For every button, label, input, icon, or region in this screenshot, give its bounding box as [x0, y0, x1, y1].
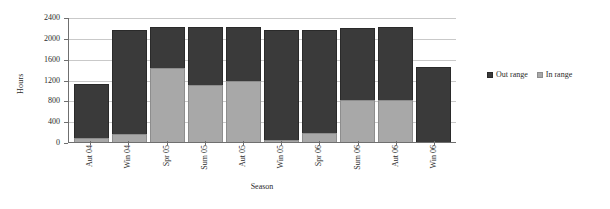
- x-axis-tick-cell: Aut 04: [73, 145, 108, 179]
- bar-segment-in-range: [378, 100, 413, 142]
- x-axis-tick-label: Spr 06: [314, 145, 324, 166]
- x-axis-tick-cell: Win 04: [111, 145, 146, 179]
- y-axis-tick-label: 1600: [30, 56, 60, 64]
- bar-column: [378, 18, 413, 142]
- bar-column: [74, 18, 109, 142]
- bar-column: [264, 18, 299, 142]
- plot-area: [68, 18, 456, 143]
- y-axis-tick-label: 2400: [30, 14, 60, 22]
- y-axis-tick-label: 0: [30, 139, 60, 147]
- y-axis-tick-label: 400: [30, 118, 60, 126]
- stacked-bar-chart: Hours 04008001200160020002400 Aut 04Win …: [0, 0, 610, 209]
- bar-segment-out-range: [150, 27, 185, 68]
- in-range-swatch-icon: [537, 72, 543, 78]
- bar-column: [112, 18, 147, 142]
- bar-segment-out-range: [302, 30, 337, 134]
- bar-segment-out-range: [340, 28, 375, 100]
- bar-segment-out-range: [378, 27, 413, 100]
- x-axis-tick-cell: Aut 06: [378, 145, 413, 179]
- bar-segment-in-range: [150, 68, 185, 142]
- x-axis-tick-labels: Aut 04Win 04Spr 05Sum 05Aut 05Win 05Spr …: [68, 145, 456, 179]
- chart-legend: Out range In range: [487, 70, 572, 79]
- bar-series-container: [69, 18, 456, 142]
- y-axis-tick-label: 1200: [30, 77, 60, 85]
- x-axis-tick-label: Aut 05: [238, 145, 248, 167]
- x-axis-title: Season: [68, 182, 456, 191]
- out-range-swatch-icon: [487, 72, 493, 78]
- x-axis-tick-cell: Win 05: [264, 145, 299, 179]
- legend-label-out-range: Out range: [496, 70, 528, 79]
- bar-segment-out-range: [264, 30, 299, 140]
- x-axis-tick-cell: Sum 06: [340, 145, 375, 179]
- bar-segment-out-range: [112, 30, 147, 135]
- legend-item-in-range: In range: [537, 70, 572, 79]
- x-axis-tick-label: Sum 05: [200, 145, 210, 170]
- x-axis-tick-label: Win 06: [429, 145, 439, 168]
- bar-segment-out-range: [226, 27, 261, 81]
- bar-segment-in-range: [188, 85, 223, 142]
- legend-item-out-range: Out range: [487, 70, 528, 79]
- bar-segment-out-range: [188, 27, 223, 85]
- bar-column: [226, 18, 261, 142]
- legend-label-in-range: In range: [546, 70, 572, 79]
- y-axis-tick-mark: [64, 143, 68, 144]
- bar-segment-out-range: [416, 67, 451, 142]
- x-axis-tick-label: Win 05: [276, 145, 286, 168]
- bar-column: [416, 18, 451, 142]
- bar-segment-out-range: [74, 84, 109, 139]
- y-axis-title: Hours: [14, 58, 28, 110]
- x-axis-tick-cell: Spr 05: [149, 145, 184, 179]
- x-axis-tick-label: Aut 06: [391, 145, 401, 167]
- x-axis-tick-cell: Sum 05: [187, 145, 222, 179]
- x-axis-tick-label: Aut 04: [85, 145, 95, 167]
- y-axis-tick-label: 2000: [30, 35, 60, 43]
- x-axis-tick-cell: Win 06: [416, 145, 451, 179]
- x-axis-tick-label: Win 04: [123, 145, 133, 168]
- bar-segment-in-range: [340, 100, 375, 142]
- bar-column: [188, 18, 223, 142]
- bar-segment-in-range: [226, 81, 261, 142]
- x-axis-tick-label: Sum 06: [353, 145, 363, 170]
- x-axis-tick-label: Spr 05: [162, 145, 172, 166]
- y-axis-tick-label: 800: [30, 97, 60, 105]
- x-axis-tick-cell: Aut 05: [225, 145, 260, 179]
- x-axis-tick-cell: Spr 06: [302, 145, 337, 179]
- bar-column: [340, 18, 375, 142]
- bar-column: [150, 18, 185, 142]
- bar-column: [302, 18, 337, 142]
